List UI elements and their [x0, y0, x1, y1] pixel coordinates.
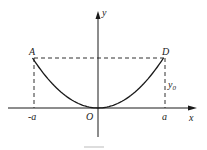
x-axis-arrow-icon: [188, 106, 197, 111]
y-axis-label: y: [101, 7, 107, 18]
point-A-label: A: [28, 46, 36, 57]
y0-height-label: y0: [167, 79, 176, 92]
pos-a-tick-label: a: [162, 111, 167, 122]
parabola-diagram: y x O A D -a a y0: [0, 0, 207, 150]
y-axis-arrow-icon: [96, 11, 101, 19]
point-D-label: D: [161, 46, 170, 57]
x-axis-label: x: [188, 112, 194, 123]
neg-a-tick-label: -a: [28, 111, 36, 122]
origin-label: O: [86, 111, 93, 122]
